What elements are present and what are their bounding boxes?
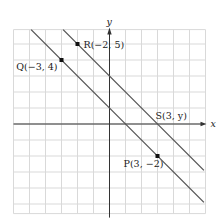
points: Q(−3, 4) R(−2, 5) S(3, y) P(3, −2) [16, 39, 187, 169]
line-RS [63, 30, 204, 171]
point-P-label: P(3, −2) [124, 158, 164, 169]
y-axis-arrow-icon [107, 28, 111, 35]
point-S-label: S(3, y) [156, 110, 187, 121]
point-R-marker [76, 42, 80, 46]
point-Q-marker [60, 58, 64, 62]
point-R-label: R(−2, 5) [84, 39, 125, 50]
y-axis-label: y [106, 16, 113, 27]
point-Q-label: Q(−3, 4) [16, 61, 57, 72]
x-axis-label: x [211, 118, 217, 129]
coordinate-plane: x y Q(−3, 4) R(−2, 5) S(3, y) P(3, −2) [0, 0, 222, 224]
